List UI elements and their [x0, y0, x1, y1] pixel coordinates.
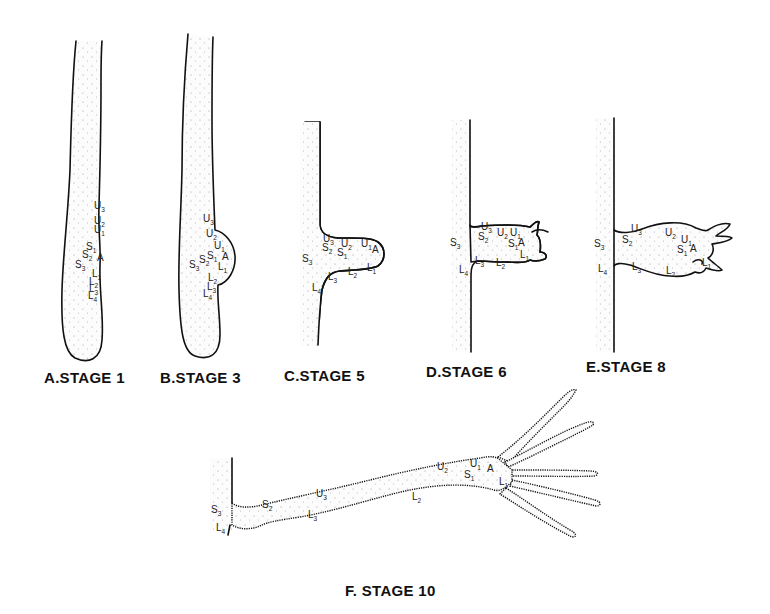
caption-stage-10: F. STAGE 10 [345, 582, 436, 599]
stage-10-drawing [210, 390, 600, 537]
caption-stage-3: B.STAGE 3 [160, 369, 241, 386]
label-l2: L2 [412, 491, 422, 504]
caption-stage-5: C.STAGE 5 [284, 367, 365, 384]
label-a: A [690, 243, 697, 254]
label-u3: U3 [94, 200, 105, 213]
stage-8-drawing [596, 118, 732, 352]
label-s2: S2 [262, 499, 273, 512]
label-a: A [372, 244, 379, 255]
stage-5-drawing [300, 122, 384, 346]
limb-development-diagram: U3U2U1S1S2AS3L1L2L3L4U3U2U1AS1S2S3L1L2L3… [0, 0, 770, 614]
caption-stage-8: E.STAGE 8 [586, 358, 666, 375]
label-a: A [518, 237, 525, 248]
label-l1: L1 [702, 257, 712, 270]
stage-3-drawing [179, 34, 235, 358]
label-a: A [487, 463, 494, 474]
label-u2: U2 [437, 461, 448, 474]
label-l3: L3 [328, 271, 338, 284]
label-a: A [97, 252, 104, 263]
label-u3: U3 [631, 223, 642, 236]
label-u3: U3 [316, 488, 327, 501]
caption-stage-6: D.STAGE 6 [426, 363, 507, 380]
caption-stage-1: A.STAGE 1 [44, 369, 125, 386]
